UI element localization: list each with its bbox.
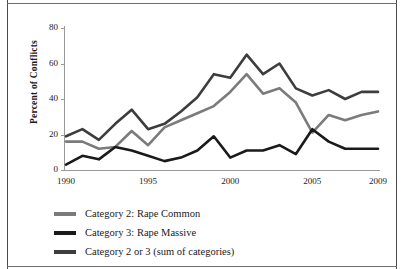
legend-item-label: Category 3: Rape Massive — [85, 227, 196, 238]
legend-item: Category 3: Rape Massive — [54, 223, 384, 242]
legend-item: Category 2: Rape Common — [54, 204, 384, 223]
legend-item: Category 2 or 3 (sum of categories) — [54, 242, 384, 261]
legend-swatch-icon — [54, 231, 76, 235]
legend-item-label: Category 2: Rape Common — [85, 208, 200, 219]
series-line — [66, 74, 378, 149]
chart-legend: Category 2: Rape CommonCategory 3: Rape … — [54, 204, 384, 261]
legend-swatch-icon — [54, 250, 76, 254]
figure-container: Percent of Conflicts 020406080 199019952… — [0, 0, 409, 269]
page-border-bottom — [7, 266, 397, 267]
series-line — [66, 55, 378, 140]
series-lines — [0, 0, 409, 200]
legend-swatch-icon — [54, 212, 76, 216]
plot-area: 020406080 19901995200020052009 — [0, 0, 409, 200]
legend-item-label: Category 2 or 3 (sum of categories) — [85, 246, 234, 257]
